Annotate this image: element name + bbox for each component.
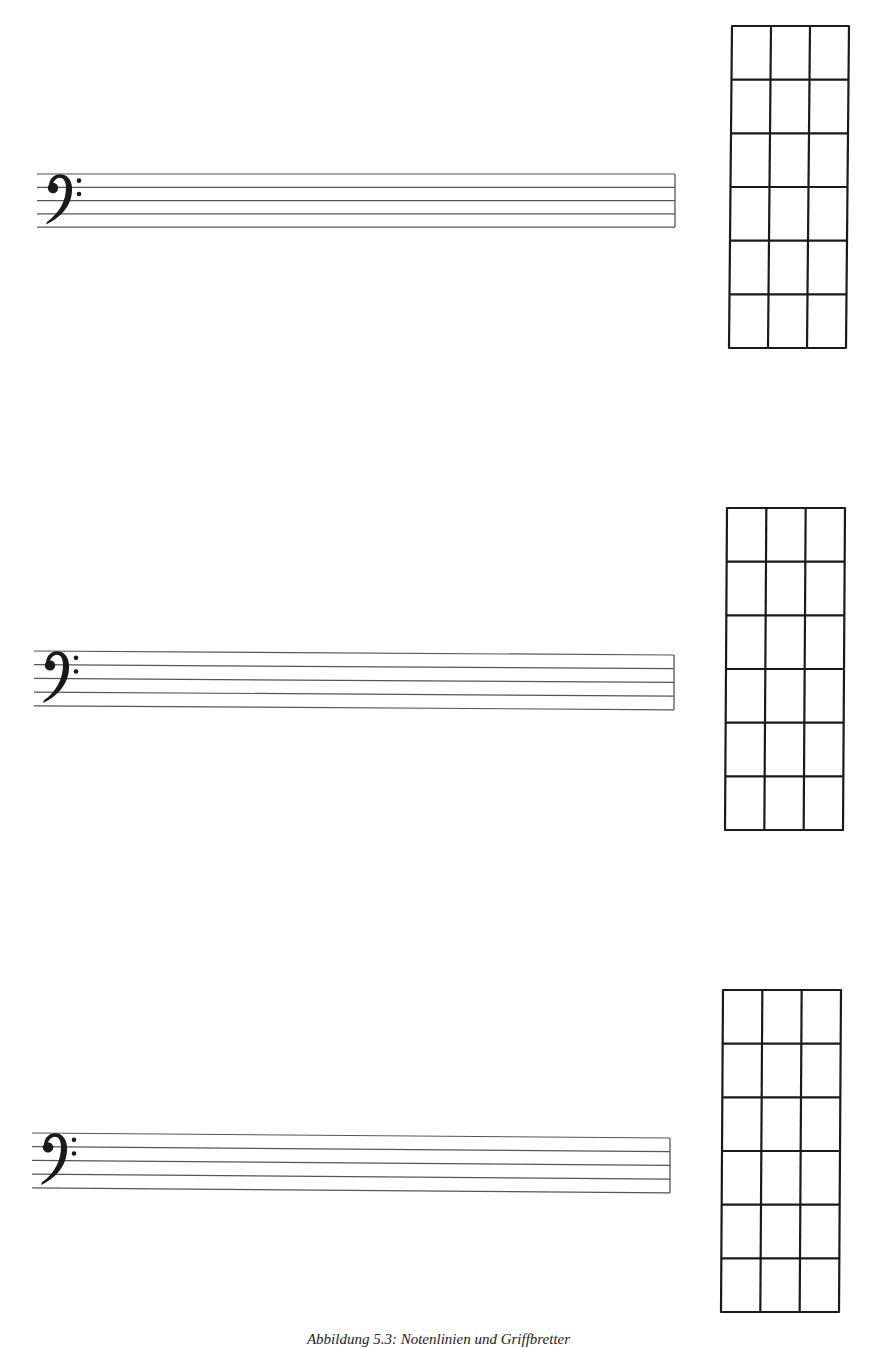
staff-line bbox=[34, 651, 674, 655]
staff bbox=[37, 174, 675, 227]
staff-line bbox=[34, 692, 674, 696]
bass-clef-icon bbox=[43, 651, 78, 703]
staff-line bbox=[34, 665, 674, 669]
staff-line bbox=[34, 678, 674, 682]
staff bbox=[34, 651, 674, 710]
staff-line bbox=[32, 1147, 670, 1152]
fretboard-diagram bbox=[721, 990, 841, 1312]
bass-clef-icon bbox=[41, 1133, 76, 1185]
staff-line bbox=[32, 1133, 670, 1138]
staff bbox=[32, 1133, 670, 1193]
staff-line bbox=[34, 706, 674, 710]
music-system-3 bbox=[32, 990, 841, 1312]
music-system-2 bbox=[34, 508, 845, 830]
music-system-1 bbox=[37, 26, 849, 348]
fretboard-diagram bbox=[725, 508, 845, 830]
staff-line bbox=[32, 1174, 670, 1179]
bass-clef-icon bbox=[46, 174, 81, 224]
staff-line bbox=[32, 1188, 670, 1193]
figure-caption: Abbildung 5.3: Notenlinien und Griffbret… bbox=[0, 1331, 877, 1348]
staff-line bbox=[32, 1160, 670, 1165]
fretboard-diagram bbox=[729, 26, 849, 348]
